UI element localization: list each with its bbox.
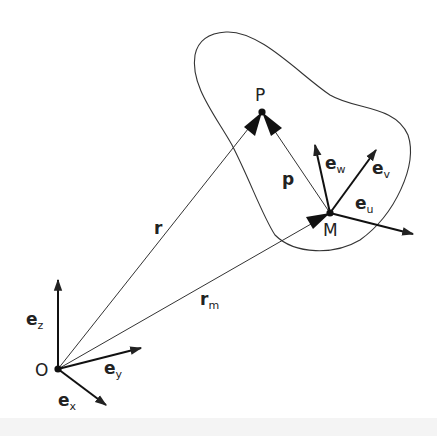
label-M: M	[323, 222, 338, 239]
label-eu: eu	[355, 195, 374, 215]
vector-r-line	[58, 124, 252, 369]
label-ey: ey	[104, 360, 122, 380]
label-O: O	[35, 362, 48, 379]
diagram-canvas	[0, 0, 437, 436]
bottom-strip	[0, 418, 437, 436]
axis-ey-arrow	[58, 348, 141, 369]
vector-p-arrowhead	[262, 112, 282, 136]
label-ew: ew	[325, 155, 346, 175]
vector-rm-line	[58, 220, 318, 369]
point-P-dot	[258, 108, 265, 115]
label-P: P	[255, 87, 265, 104]
label-vector-rm: rm	[200, 291, 219, 311]
label-vector-r: r	[154, 220, 162, 237]
label-ev: ev	[372, 160, 390, 180]
rigid-body-outline	[194, 32, 410, 251]
label-ex: ex	[58, 392, 76, 412]
label-ez: ez	[26, 311, 43, 331]
label-vector-p: p	[282, 171, 294, 188]
vector-r-arrowhead	[244, 112, 262, 136]
